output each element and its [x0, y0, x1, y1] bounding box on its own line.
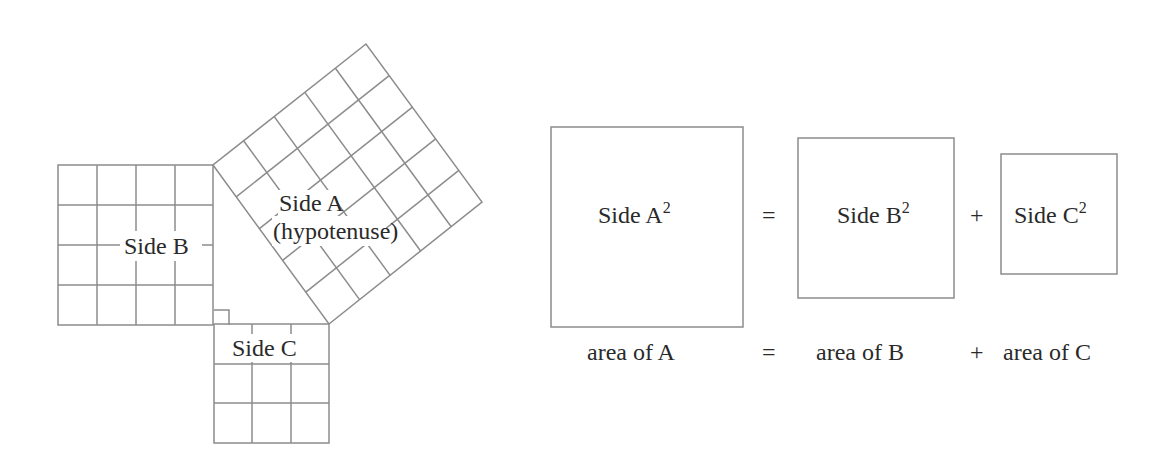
- plus-sign: +: [970, 202, 984, 228]
- label-side-c: Side C: [232, 335, 297, 361]
- caption-area-c: area of C: [1003, 339, 1091, 365]
- label-side-b: Side B: [124, 233, 189, 259]
- caption-plus: +: [970, 339, 984, 365]
- equals-sign: =: [762, 202, 776, 228]
- caption-area-a: area of A: [587, 339, 676, 365]
- caption-equals: =: [762, 339, 776, 365]
- box-c-label: Side C2: [1014, 199, 1087, 228]
- box-b-label: Side B2: [837, 199, 910, 228]
- square-a: [213, 44, 482, 324]
- caption-area-b: area of B: [816, 339, 904, 365]
- pythagorean-diagram: Side B Side C Side A (hypotenuse) Side A…: [0, 0, 1166, 460]
- right-angle-marker: [214, 310, 229, 325]
- box-a-label: Side A2: [598, 199, 671, 228]
- label-side-a: Side A: [279, 190, 344, 216]
- label-hypotenuse: (hypotenuse): [273, 218, 398, 244]
